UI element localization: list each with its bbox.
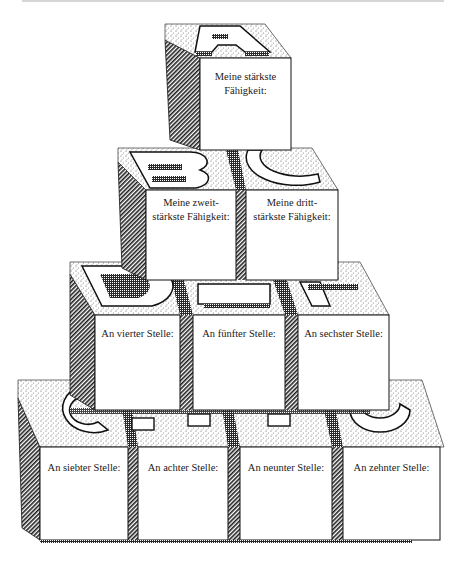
- block-h-eighth-skill: An achter Stelle:: [138, 447, 228, 540]
- block-c-label-line2: stärkste Fähigkeit:: [246, 210, 338, 224]
- block-g-seventh-skill: An siebter Stelle:: [40, 447, 128, 540]
- skills-pyramid-diagram: Meine stärkste Fähigkeit: Meine zweit- s…: [0, 0, 466, 567]
- block-a-label-line1: Meine stärkste: [200, 70, 291, 84]
- block-j-tenth-skill: An zehnter Stelle:: [343, 447, 440, 540]
- block-j-label: An zehnter Stelle:: [343, 461, 440, 475]
- block-c-label-line1: Meine dritt-: [246, 196, 338, 210]
- block-e-label: An fünfter Stelle:: [193, 327, 285, 341]
- block-c-third-skill: Meine dritt- stärkste Fähigkeit:: [246, 190, 338, 280]
- block-f-label: An sechster Stelle:: [298, 327, 389, 341]
- block-i-label: An neunter Stelle:: [240, 461, 332, 475]
- block-h-label: An achter Stelle:: [138, 461, 228, 475]
- block-g-label: An siebter Stelle:: [40, 461, 128, 475]
- block-e-fifth-skill: An fünfter Stelle:: [193, 315, 285, 410]
- block-b-label-line1: Meine zweit-: [146, 196, 236, 210]
- block-a-strongest-skill: Meine stärkste Fähigkeit:: [200, 58, 291, 150]
- block-b-second-skill: Meine zweit- stärkste Fähigkeit:: [146, 190, 236, 280]
- block-i-ninth-skill: An neunter Stelle:: [240, 447, 332, 540]
- block-d-fourth-skill: An vierter Stelle:: [95, 315, 180, 410]
- block-d-label: An vierter Stelle:: [95, 327, 180, 341]
- block-f-sixth-skill: An sechster Stelle:: [298, 315, 389, 410]
- block-b-label-line2: stärkste Fähigkeit:: [146, 210, 236, 224]
- block-a-label-line2: Fähigkeit:: [200, 84, 291, 98]
